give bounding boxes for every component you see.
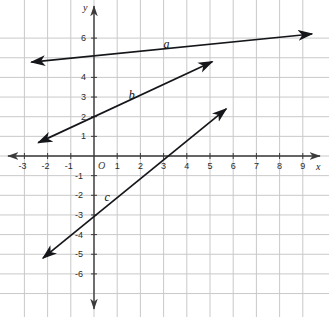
line-label-a: a	[164, 38, 170, 50]
plotted-line-b	[38, 62, 212, 143]
x-tick-label-4: 4	[184, 162, 189, 171]
x-tick-label-2: 2	[138, 162, 143, 171]
y-axis-label: y	[83, 3, 87, 13]
y-tick-label-1: 1	[81, 132, 86, 141]
y-tick-label-neg4: -4	[75, 231, 83, 240]
y-tick-label-3: 3	[81, 93, 86, 102]
y-tick-label-neg6: -6	[75, 270, 83, 279]
x-tick-label-neg2: -2	[42, 162, 50, 171]
y-tick-label-2: 2	[81, 113, 86, 122]
origin-label: O	[98, 161, 105, 171]
x-tick-label-neg1: -1	[65, 162, 73, 171]
line-label-c: c	[104, 191, 109, 203]
x-axis-label: x	[316, 162, 320, 172]
line-label-b: b	[129, 89, 135, 101]
plotted-lines	[31, 34, 312, 258]
coordinate-plane-graph: -3-2-112345678964321-1-2-3-4-5-6Oxyabc	[0, 0, 329, 317]
y-tick-label-neg3: -3	[75, 211, 83, 220]
y-tick-label-6: 6	[81, 34, 86, 43]
x-tick-label-7: 7	[254, 162, 259, 171]
x-tick-label-5: 5	[208, 162, 213, 171]
x-tick-label-8: 8	[277, 162, 282, 171]
x-tick-label-neg3: -3	[18, 162, 26, 171]
x-tick-label-6: 6	[231, 162, 236, 171]
x-tick-label-1: 1	[115, 162, 120, 171]
x-tick-label-3: 3	[161, 162, 166, 171]
y-tick-label-neg5: -5	[75, 250, 83, 259]
y-tick-label-4: 4	[81, 73, 86, 82]
y-tick-label-neg2: -2	[75, 191, 83, 200]
y-tick-label-neg1: -1	[75, 172, 83, 181]
x-tick-label-9: 9	[300, 162, 305, 171]
